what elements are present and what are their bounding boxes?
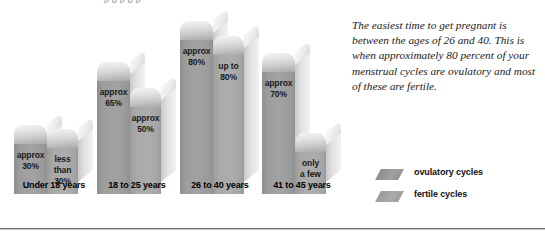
bar-value-label: only a few xyxy=(295,158,326,180)
chart-legend: ovulatory cycles fertile cycles xyxy=(378,166,538,210)
bar-ovulatory-26-40[interactable]: approx 80% xyxy=(180,40,213,194)
bar-value-label: approx 80% xyxy=(180,46,213,68)
bar-top-face xyxy=(295,133,326,152)
legend-label: ovulatory cycles xyxy=(414,167,483,177)
bar-value-label: approx 70% xyxy=(262,78,295,100)
bar-top-face xyxy=(97,62,130,81)
explanatory-note: The easiest time to get pregnant is betw… xyxy=(352,18,538,94)
bar-value-label: approx 50% xyxy=(130,113,161,135)
x-axis-label-41-45: 41 to 45 years xyxy=(254,180,350,190)
bar-top-face xyxy=(130,88,161,107)
bar-chart: approx 30% less than 30% Under 18 years xyxy=(0,0,345,216)
bar-ovulatory-41-45[interactable]: approx 70% xyxy=(262,72,295,194)
legend-label: fertile cycles xyxy=(414,189,467,199)
bar-value-label: approx 30% xyxy=(14,150,47,172)
bar-ovulatory-18-25[interactable]: approx 65% xyxy=(97,81,130,194)
bar-top-face xyxy=(180,21,213,40)
bar-top-face xyxy=(14,125,47,144)
bottom-divider-shadow xyxy=(0,229,545,230)
bar-fertile-26-40[interactable]: up to 80% xyxy=(213,55,244,194)
bar-value-label: up to 80% xyxy=(213,61,244,83)
bar-value-label: approx 65% xyxy=(97,87,130,109)
bar-top-face xyxy=(213,36,244,55)
legend-item-fertile[interactable]: fertile cycles xyxy=(378,188,538,210)
bar-side-face xyxy=(244,31,259,182)
figure-root: p g p g p approx 30% less xyxy=(0,0,545,239)
legend-item-ovulatory[interactable]: ovulatory cycles xyxy=(378,166,538,188)
legend-swatch-icon xyxy=(375,169,404,180)
x-axis-label-18-25: 18 to 25 years xyxy=(89,180,185,190)
legend-swatch-icon xyxy=(375,191,404,202)
bar-top-face xyxy=(262,53,295,72)
bar-top-face xyxy=(47,129,78,148)
x-axis-label-under-18: Under 18 years xyxy=(6,180,102,190)
